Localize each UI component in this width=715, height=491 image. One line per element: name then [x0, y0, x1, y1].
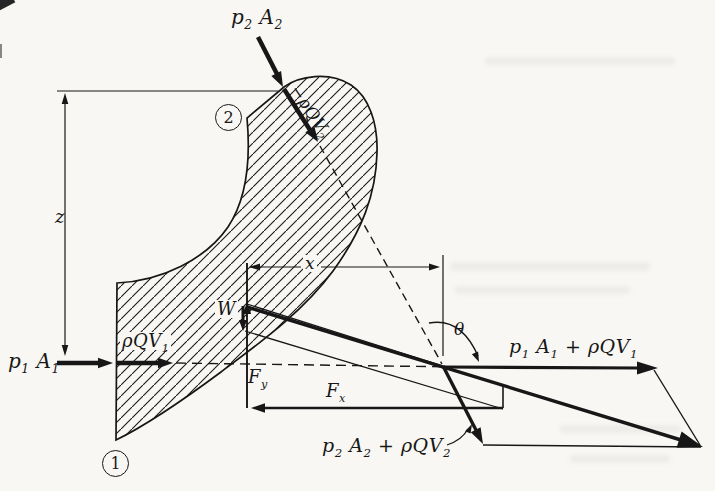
x-dimension-arrowhead-right — [429, 264, 440, 271]
sum2-label: p2 A2 + ρQV2 — [322, 436, 451, 455]
fx-label: Fx — [326, 382, 346, 400]
rhoqv1-label: ρQV1 — [120, 332, 171, 350]
p1a1-label: p1 A1 — [8, 351, 60, 371]
resultant-arrowhead — [677, 432, 703, 448]
station-2-badge: 2 — [215, 104, 242, 131]
theta-arc-arrowhead — [472, 351, 479, 362]
sum1-label: p1 A1 + ρQV1 — [509, 337, 638, 356]
p2a2-label: p2 A2 — [231, 7, 283, 27]
station-1-badge: 1 — [102, 450, 129, 477]
p2a2-arrowhead — [271, 71, 283, 87]
x-dimension-label: x — [303, 255, 317, 272]
z-dimension-label: z — [55, 208, 65, 226]
figure-canvas: p2 A2 −ρQV2 z x p1 A1 ρQV1 W Fy Fx θ p1 … — [0, 0, 715, 491]
theta-label: θ — [454, 321, 465, 338]
fy-label: Fy — [248, 368, 268, 386]
p2a2-arrow-shaft — [258, 37, 277, 74]
fx-arrowhead — [251, 403, 265, 413]
weight-label: W — [215, 300, 238, 318]
sum1-vector-shaft — [444, 367, 638, 368]
z-dimension-arrowhead-bottom — [62, 345, 69, 356]
sum2-vector-arrowhead — [471, 427, 483, 444]
construction-line-lower — [245, 331, 503, 409]
z-dimension-arrowhead-top — [62, 93, 69, 104]
parallelogram-side-bottom — [483, 445, 701, 447]
p1a1-arrowhead — [98, 358, 113, 368]
bend-diagram — [0, 0, 715, 491]
